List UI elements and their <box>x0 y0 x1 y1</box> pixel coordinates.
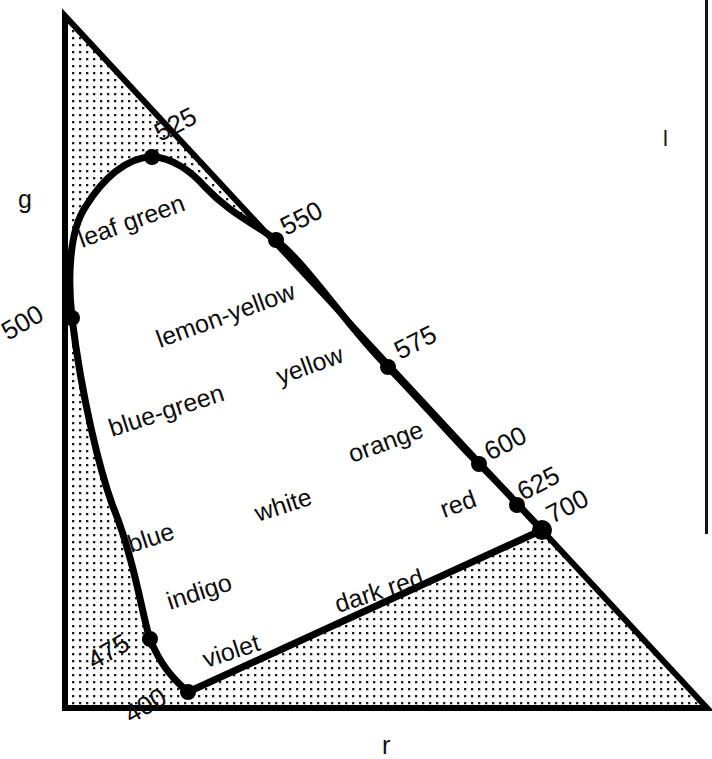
marker-dot-525 <box>144 149 160 165</box>
axis-label-r: r <box>382 731 390 759</box>
axis-label-g: g <box>18 185 32 213</box>
marker-dot-500 <box>64 310 80 326</box>
marker-dot-600 <box>471 456 487 472</box>
marker-dot-550 <box>268 232 284 248</box>
cie-chromaticity-diagram: g r l 525 550 575 600 625 700 500 475 40… <box>0 0 712 759</box>
marker-dot-700 <box>532 520 552 540</box>
marker-dot-575 <box>380 359 396 375</box>
margin-mark-l: l <box>663 126 668 151</box>
marker-dot-400 <box>180 684 196 700</box>
marker-dot-475 <box>142 631 158 647</box>
chromaticity-plot-svg: g r l 525 550 575 600 625 700 500 475 40… <box>0 0 712 759</box>
